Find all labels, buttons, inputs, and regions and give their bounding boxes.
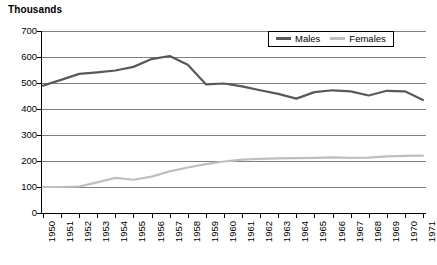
x-axis-tick-label: 1962 — [264, 221, 274, 242]
x-axis-tick-mark — [206, 214, 207, 218]
x-axis-tick-label: 1956 — [156, 221, 166, 242]
chart-container: Thousands 7006005004003002001000 1950195… — [0, 0, 437, 265]
x-axis-tick-label: 1965 — [318, 221, 328, 242]
x-axis-tick-label: 1963 — [282, 221, 292, 242]
x-axis-tick-mark — [278, 214, 279, 218]
legend-label: Females — [349, 34, 385, 44]
x-axis-tick-mark — [242, 214, 243, 218]
legend-item-males[interactable]: Males — [276, 34, 320, 44]
chart-legend: MalesFemales — [268, 31, 394, 47]
legend-label: Males — [295, 34, 320, 44]
legend-item-females[interactable]: Females — [330, 34, 385, 44]
x-axis-tick-mark — [405, 214, 406, 218]
x-axis-tick-label: 1968 — [373, 221, 383, 242]
x-axis-tick-label: 1954 — [119, 221, 129, 242]
x-axis-tick-mark — [369, 214, 370, 218]
x-axis-tick-label: 1964 — [300, 221, 310, 242]
series-line-females — [43, 156, 423, 187]
legend-swatch-icon — [276, 37, 291, 40]
y-axis-tick-label: 200 — [5, 156, 37, 166]
x-axis-tick-label: 1970 — [409, 221, 419, 242]
x-axis-tick-mark — [188, 214, 189, 218]
x-axis-tick-label: 1950 — [47, 221, 57, 242]
y-axis-tick-label: 600 — [5, 52, 37, 62]
series-line-males — [43, 56, 423, 100]
x-axis-tick-mark — [79, 214, 80, 218]
x-axis-tick-label: 1955 — [137, 221, 147, 242]
x-axis-tick-mark — [296, 214, 297, 218]
x-axis-tick-label: 1960 — [228, 221, 238, 242]
x-axis-tick-mark — [314, 214, 315, 218]
series-plot — [41, 31, 426, 213]
y-axis-tick-label: 400 — [5, 104, 37, 114]
x-axis-tick-label: 1959 — [210, 221, 220, 242]
x-axis-tick-label: 1957 — [174, 221, 184, 242]
x-axis-tick-mark — [333, 214, 334, 218]
y-axis: 7006005004003002001000 — [0, 0, 37, 265]
x-axis-tick-mark — [115, 214, 116, 218]
y-axis-tick-label: 700 — [5, 26, 37, 36]
x-axis-tick-mark — [133, 214, 134, 218]
x-axis-tick-mark — [423, 214, 424, 218]
y-axis-tick-label: 300 — [5, 130, 37, 140]
x-axis-tick-label: 1952 — [83, 221, 93, 242]
x-axis-tick-mark — [43, 214, 44, 218]
x-axis-tick-label: 1961 — [246, 221, 256, 242]
x-axis-tick-label: 1958 — [192, 221, 202, 242]
x-axis-tick-mark — [170, 214, 171, 218]
x-axis-tick-mark — [351, 214, 352, 218]
x-axis-tick-mark — [260, 214, 261, 218]
x-axis-tick-label: 1966 — [337, 221, 347, 242]
x-axis-tick-mark — [224, 214, 225, 218]
y-axis-tick-label: 500 — [5, 78, 37, 88]
x-axis-tick-label: 1953 — [101, 221, 111, 242]
y-axis-tick-label: 0 — [5, 208, 37, 218]
x-axis-tick-mark — [152, 214, 153, 218]
x-axis-tick-mark — [61, 214, 62, 218]
x-axis-tick-label: 1967 — [355, 221, 365, 242]
x-axis-tick-mark — [97, 214, 98, 218]
legend-swatch-icon — [330, 37, 345, 40]
x-axis-tick-label: 1971 — [427, 221, 437, 242]
x-axis-tick-mark — [387, 214, 388, 218]
x-axis-tick-label: 1951 — [65, 221, 75, 242]
x-axis-tick-label: 1969 — [391, 221, 401, 242]
y-axis-tick-label: 100 — [5, 182, 37, 192]
